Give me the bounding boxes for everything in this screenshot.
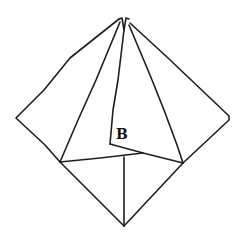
right-flap-edge xyxy=(129,25,183,163)
top-notch xyxy=(119,18,129,30)
origami-fold-diagram: B xyxy=(0,0,241,236)
outer-right-edge xyxy=(124,23,229,226)
label-b: B xyxy=(116,126,128,142)
b-fold-line xyxy=(110,144,183,163)
horizontal-crease xyxy=(60,153,143,162)
